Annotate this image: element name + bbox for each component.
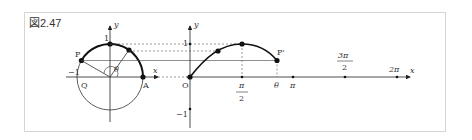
graph-y-label: y: [193, 20, 199, 29]
label-pi-over-2-den: 2: [239, 94, 244, 103]
circle-neg-one-label: −1: [68, 68, 80, 77]
tick-3pi-over-2: [344, 76, 347, 79]
point-P-prime: [274, 58, 279, 63]
tick-y-neg-one: [189, 108, 192, 111]
tick-pi-over-2: [241, 76, 244, 79]
tick-pi: [292, 76, 295, 79]
label-theta-circle: θ: [114, 65, 119, 74]
graph-neg-one-label: −1: [176, 110, 188, 119]
graph-one-label: 1: [183, 39, 188, 48]
label-2pi: 2π: [388, 65, 400, 74]
label-theta-graph: θ: [274, 81, 279, 90]
tick-y-one: [189, 43, 192, 46]
label-pi: π: [289, 81, 296, 90]
point-mid: [126, 47, 131, 52]
label-3pi-over-2-num: 3π: [338, 51, 349, 60]
sine-graph-group: y x 1 −1 O P' π 2 θ π 3π 2 2π: [176, 20, 415, 128]
diagram-canvas: y x 1 −1 P Q A θ y x 1: [0, 0, 472, 140]
circle-one-label: 1: [104, 34, 109, 43]
label-P-prime: P': [277, 48, 285, 57]
point-curve-mid: [215, 48, 220, 53]
radius-mid: [110, 50, 129, 77]
point-peak: [239, 41, 244, 46]
point-O: [187, 74, 192, 79]
label-A: A: [142, 81, 149, 90]
label-Q: Q: [81, 81, 88, 90]
label-origin: O: [182, 81, 189, 90]
unit-circle-group: y x 1 −1 P Q A θ: [66, 20, 186, 122]
circle-y-label: y: [113, 20, 119, 29]
point-A: [140, 74, 145, 79]
tick-2pi: [396, 76, 399, 79]
label-P: P: [75, 50, 81, 59]
label-pi-over-2-num: π: [238, 81, 245, 90]
graph-x-label: x: [410, 66, 415, 75]
circle-x-label: x: [153, 66, 158, 75]
label-3pi-over-2-den: 2: [342, 63, 347, 72]
